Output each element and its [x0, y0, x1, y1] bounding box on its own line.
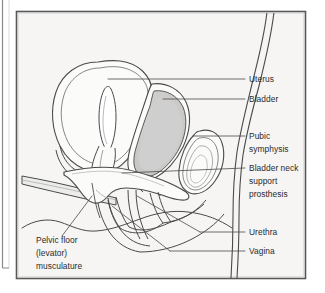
label-pelvic-floor-line3: musculature	[36, 261, 82, 271]
label-prosthesis-line1: Bladder neck	[249, 163, 299, 173]
label-pelvic-floor-line1: Pelvic floor	[36, 235, 78, 245]
figure-page: Uterus Bladder Pubic symphysis Bladder n…	[0, 0, 325, 293]
label-uterus: Uterus	[249, 74, 274, 84]
label-prosthesis-line3: prosthesis	[249, 189, 288, 199]
label-prosthesis-line2: support	[249, 176, 278, 186]
label-bladder: Bladder	[249, 94, 278, 104]
pelvic-anatomy-illustration: Uterus Bladder Pubic symphysis Bladder n…	[0, 0, 325, 293]
label-urethra: Urethra	[249, 227, 278, 237]
label-pubic-symphysis-line1: Pubic	[249, 131, 270, 141]
label-pelvic-floor-line2: (levator)	[36, 248, 67, 258]
label-pubic-symphysis-line2: symphysis	[249, 144, 289, 154]
label-vagina: Vagina	[249, 246, 275, 256]
